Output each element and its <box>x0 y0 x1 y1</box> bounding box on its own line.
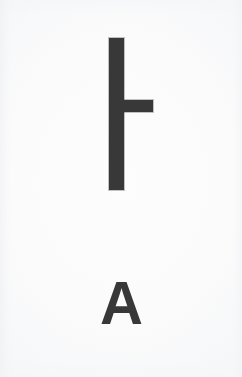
symbol-label: A <box>100 272 143 334</box>
symbol-label-row: A <box>0 272 242 334</box>
horizontal-arm-shape <box>122 100 153 112</box>
vertical-stroke-shape <box>109 38 124 190</box>
symbol-card: A <box>0 0 242 377</box>
